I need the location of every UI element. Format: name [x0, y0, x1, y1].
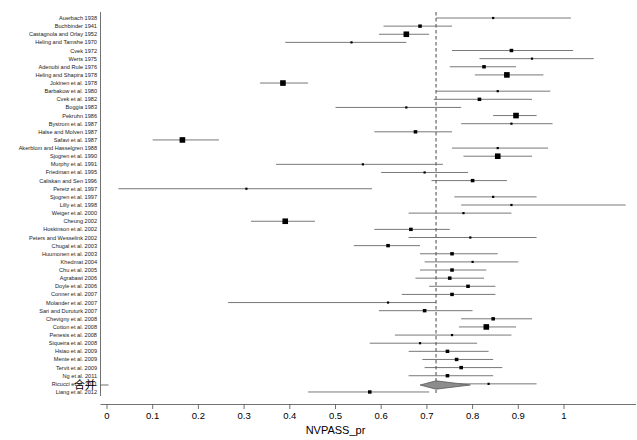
effect-estimate-marker [245, 188, 247, 190]
study-label: Cotton et al. 2008 [53, 324, 97, 330]
x-axis-tick-label: 0.8 [466, 410, 479, 421]
study-label: Siqueira et al. 2008 [49, 340, 97, 346]
study-label: Halse and Molven 1987 [38, 129, 97, 135]
x-axis-tick-label: 0.6 [375, 410, 388, 421]
study-label: Buchbinder 1941 [55, 23, 97, 29]
effect-estimate-marker [472, 261, 474, 263]
study-label: Heling and Tamshe 1970 [35, 39, 97, 45]
study-label: Chugal et al. 2003 [52, 243, 97, 249]
effect-estimate-marker [531, 58, 533, 60]
forest-plot: 00.10.20.30.40.50.60.70.80.91NVPASS_prAu… [0, 0, 637, 440]
effect-estimate-marker [280, 80, 286, 86]
effect-estimate-marker [495, 153, 501, 159]
study-label: Peretz et al. 1997 [53, 186, 97, 192]
x-axis-tick-label: 1 [561, 410, 566, 421]
study-label: Akerblom and Hasselgren 1988 [19, 145, 97, 151]
study-label: Cvek 1972 [70, 48, 97, 54]
effect-estimate-marker [405, 106, 407, 108]
study-label: Mente et al. 2009 [54, 356, 97, 362]
forest-plot-canvas: 00.10.20.30.40.50.60.70.80.91NVPASS_prAu… [0, 0, 637, 440]
effect-estimate-marker [471, 179, 475, 182]
study-label: Lilly et al. 1998 [60, 202, 97, 208]
study-label: Safavi et al. 1987 [54, 137, 97, 143]
x-axis-tick-label: 0.1 [146, 410, 159, 421]
effect-estimate-marker [409, 228, 413, 231]
study-label: Barbakow et al. 1980 [44, 88, 97, 94]
study-label: Hsiao et al. 2009 [55, 348, 97, 354]
study-label: Agrabawi 2006 [60, 275, 97, 281]
study-label: Werts 1975 [68, 56, 97, 62]
study-label: Sjogren et al. 1990 [50, 153, 97, 159]
study-label: Murphy et al. 1991 [51, 161, 97, 167]
effect-estimate-marker [448, 276, 452, 279]
study-label: Auerbach 1938 [59, 15, 97, 21]
summary-label: 合并 [74, 378, 96, 392]
effect-estimate-marker [482, 65, 486, 68]
effect-estimate-marker [414, 130, 418, 133]
summary-diamond [420, 381, 470, 389]
effect-estimate-marker [446, 350, 450, 353]
effect-estimate-marker [446, 374, 450, 377]
x-axis-tick-label: 0.7 [420, 410, 433, 421]
effect-estimate-marker [418, 24, 422, 27]
study-label: Chu et al. 2005 [59, 267, 97, 273]
study-label: Molander et al. 2007 [46, 300, 97, 306]
effect-estimate-marker [510, 204, 512, 206]
effect-estimate-marker [466, 285, 470, 288]
study-label: Boggia 1983 [66, 104, 97, 110]
effect-estimate-marker [510, 123, 512, 125]
study-label: Bystrom et al. 1987 [49, 121, 97, 127]
study-label: Cheung 2002 [63, 218, 97, 224]
study-label: Jokinen et al. 1978 [50, 80, 97, 86]
study-label: Weiger et al. 2000 [52, 210, 97, 216]
study-label: Pekruhn 1986 [62, 113, 97, 119]
x-axis-title: NVPASS_pr [306, 424, 366, 436]
study-label: Castagnola and Orlay 1952 [29, 31, 97, 37]
x-axis-tick-label: 0 [104, 410, 109, 421]
effect-estimate-marker [387, 301, 389, 303]
effect-estimate-marker [362, 163, 364, 165]
effect-estimate-marker [404, 31, 410, 37]
study-label: Adenubi and Rule 1976 [39, 64, 97, 70]
effect-estimate-marker [491, 317, 495, 320]
x-axis-tick-label: 0.2 [192, 410, 205, 421]
study-label: Sjogren et al. 1997 [50, 194, 97, 200]
study-label: Huumonen et al. 2003 [42, 251, 97, 257]
effect-estimate-marker [459, 366, 463, 369]
effect-estimate-marker [423, 309, 427, 312]
study-label: Doyle et al. 2006 [55, 283, 97, 289]
effect-estimate-marker [469, 236, 471, 238]
x-axis-tick-label: 0.4 [283, 410, 296, 421]
effect-estimate-marker [478, 98, 482, 101]
effect-estimate-marker [282, 218, 288, 224]
effect-estimate-marker [492, 196, 494, 198]
effect-estimate-marker [504, 72, 510, 78]
effect-estimate-marker [497, 90, 499, 92]
effect-estimate-marker [450, 293, 454, 296]
effect-estimate-marker [497, 147, 499, 149]
effect-estimate-marker [484, 324, 490, 330]
effect-estimate-marker [180, 137, 186, 143]
study-label: Friedman et al. 1995 [46, 169, 97, 175]
x-axis-tick-label: 0.3 [237, 410, 250, 421]
effect-estimate-marker [492, 17, 494, 19]
effect-estimate-marker [450, 268, 454, 271]
study-label: Chevigny et al. 2008 [46, 316, 97, 322]
effect-estimate-marker [350, 41, 352, 43]
effect-estimate-marker [368, 390, 372, 393]
study-label: Cvek et al. 1982 [57, 96, 97, 102]
effect-estimate-marker [451, 334, 453, 336]
study-label: Khedmat 2004 [61, 259, 97, 265]
effect-estimate-marker [487, 383, 489, 385]
study-label: Hoskinson et al. 2002 [43, 226, 97, 232]
study-label: Heling and Shapira 1978 [35, 72, 97, 78]
effect-estimate-marker [386, 244, 390, 247]
study-label: Tervit et al. 2009 [56, 365, 97, 371]
study-label: Sari and Duruturk 2007 [39, 308, 97, 314]
effect-estimate-marker [450, 252, 454, 255]
effect-estimate-marker [510, 49, 514, 52]
study-label: Penesis et al. 2008 [49, 332, 97, 338]
effect-estimate-marker [455, 358, 459, 361]
study-label: Conner et al. 2007 [51, 291, 97, 297]
study-label: Peters and Wesselink 2002 [29, 235, 97, 241]
